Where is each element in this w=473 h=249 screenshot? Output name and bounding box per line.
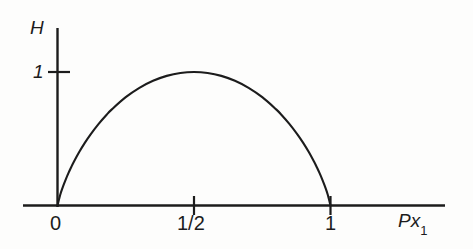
entropy-curve xyxy=(58,72,331,206)
y-axis-label: H xyxy=(30,18,44,37)
y-tick-label-1: 1 xyxy=(33,62,44,81)
x-tick-label-1: 1 xyxy=(325,213,336,233)
x-tick-label-0: 0 xyxy=(50,213,61,233)
x-axis-label: Px1 xyxy=(398,211,427,234)
x-axis-label-main: Px xyxy=(398,210,420,231)
entropy-figure: H 1 0 1/2 1 Px1 xyxy=(0,0,473,249)
x-axis-label-subscript: 1 xyxy=(420,223,427,238)
x-tick-label-half: 1/2 xyxy=(177,213,205,233)
